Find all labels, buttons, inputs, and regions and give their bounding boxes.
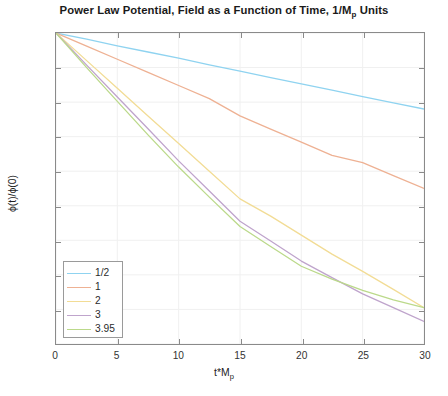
x-tick-mark [241, 33, 242, 38]
legend-color-swatch [67, 273, 91, 274]
x-tick-label: 15 [234, 350, 245, 361]
y-tick-mark [419, 68, 424, 69]
legend-item-label: 3 [95, 310, 101, 320]
x-tick-mark [364, 33, 365, 38]
legend-color-swatch [67, 329, 91, 330]
y-tick-mark [419, 311, 424, 312]
chart-title-main: Power Law Potential, Field as a Function… [60, 4, 352, 16]
chart-legend[interactable]: 1/21233.95 [63, 261, 123, 338]
y-tick-mark [56, 103, 61, 104]
legend-item[interactable]: 2 [67, 294, 119, 308]
y-tick-mark [56, 137, 61, 138]
x-tick-label: 10 [173, 350, 184, 361]
y-tick-mark [56, 172, 61, 173]
legend-item[interactable]: 1 [67, 280, 119, 294]
y-axis-label-text: ϕ(t)/ϕ(0) [7, 175, 18, 212]
chart-title: Power Law Potential, Field as a Function… [0, 4, 448, 19]
legend-item[interactable]: 3.95 [67, 322, 119, 336]
x-tick-mark [364, 339, 365, 344]
series-line [56, 33, 424, 109]
x-tick-mark [179, 339, 180, 344]
x-tick-label: 5 [114, 350, 120, 361]
legend-item-label: 1 [95, 282, 101, 292]
y-tick-mark [419, 137, 424, 138]
x-axis-label-subscript: p [230, 372, 234, 381]
y-tick-mark [419, 242, 424, 243]
y-tick-mark [56, 276, 61, 277]
y-tick-mark [419, 207, 424, 208]
legend-item-label: 1/2 [95, 268, 109, 278]
x-tick-label: 25 [358, 350, 369, 361]
chart-figure: Power Law Potential, Field as a Function… [0, 0, 448, 396]
legend-item-label: 2 [95, 296, 101, 306]
legend-item[interactable]: 1/2 [67, 266, 119, 280]
y-axis-label: ϕ(t)/ϕ(0) [7, 175, 18, 212]
x-tick-mark [303, 33, 304, 38]
y-tick-mark [56, 311, 61, 312]
legend-item[interactable]: 3 [67, 308, 119, 322]
x-tick-mark [241, 339, 242, 344]
series-line [56, 33, 424, 189]
x-tick-mark [303, 339, 304, 344]
y-tick-mark [419, 276, 424, 277]
legend-color-swatch [67, 287, 91, 288]
y-tick-mark [419, 172, 424, 173]
y-tick-mark [419, 103, 424, 104]
y-tick-mark [56, 207, 61, 208]
x-tick-label: 0 [52, 350, 58, 361]
chart-title-tail: Units [356, 4, 388, 16]
y-tick-mark [56, 242, 61, 243]
x-tick-mark [118, 339, 119, 344]
x-tick-label: 20 [296, 350, 307, 361]
x-tick-label: 30 [419, 350, 430, 361]
legend-color-swatch [67, 301, 91, 302]
x-tick-mark [118, 33, 119, 38]
x-axis-label-text: t*M [214, 367, 230, 378]
x-tick-mark [179, 33, 180, 38]
legend-item-label: 3.95 [95, 324, 115, 334]
legend-color-swatch [67, 315, 91, 316]
y-tick-mark [56, 68, 61, 69]
x-axis-label: t*Mp [0, 367, 448, 381]
